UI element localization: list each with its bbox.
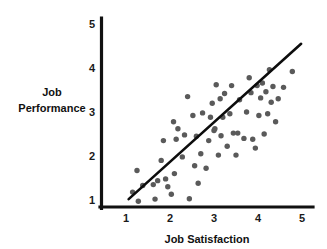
data-point [290, 69, 295, 74]
data-point [187, 196, 192, 201]
data-point [247, 75, 252, 80]
data-point [171, 119, 176, 124]
data-point [182, 132, 187, 137]
data-point [152, 196, 157, 201]
x-axis-tick-labels: 12345 [123, 212, 305, 224]
y-axis-title-line2: Performance [18, 102, 85, 114]
x-tick-label: 2 [167, 212, 173, 224]
data-point [276, 96, 281, 101]
x-tick-label: 4 [255, 212, 262, 224]
data-point [261, 131, 266, 136]
data-point [192, 163, 197, 168]
y-axis-tick-labels: 12345 [89, 18, 96, 206]
y-axis-title-line1: Job [42, 86, 62, 98]
y-tick-label: 5 [89, 18, 95, 30]
data-point [233, 152, 238, 157]
data-point [222, 91, 227, 96]
x-tick-label: 3 [211, 212, 217, 224]
data-point [134, 168, 139, 173]
data-point [180, 154, 185, 159]
data-point [281, 85, 286, 90]
data-point [159, 158, 164, 163]
data-point [244, 109, 249, 114]
data-point [172, 171, 177, 176]
data-points-group [130, 67, 295, 204]
y-tick-label: 2 [89, 150, 95, 162]
data-point [163, 176, 168, 181]
data-point [210, 101, 215, 106]
data-point [269, 100, 274, 105]
data-point [217, 96, 222, 101]
data-point [161, 138, 166, 143]
x-tick-label: 1 [123, 212, 129, 224]
x-tick-label: 5 [299, 212, 305, 224]
data-point [136, 199, 141, 204]
data-point [203, 166, 208, 171]
data-point [169, 192, 174, 197]
data-point [175, 126, 180, 131]
data-point [173, 137, 178, 142]
data-point [229, 83, 234, 88]
data-point [270, 84, 275, 89]
scatter-plot-figure: 12345 12345 Job Satisfaction Job Perform… [0, 0, 327, 249]
data-point [214, 82, 219, 87]
y-tick-label: 1 [89, 194, 95, 206]
data-point [250, 137, 255, 142]
data-point [198, 151, 203, 156]
data-point [263, 89, 268, 94]
data-point [225, 144, 230, 149]
y-tick-label: 3 [89, 106, 95, 118]
data-point [185, 94, 190, 99]
data-point [256, 113, 261, 118]
data-point [235, 130, 240, 135]
data-point [227, 111, 232, 116]
y-tick-label: 4 [89, 62, 96, 74]
data-point [155, 178, 160, 183]
data-point [212, 126, 217, 131]
data-point [218, 133, 223, 138]
data-point [206, 138, 211, 143]
data-point [190, 113, 195, 118]
data-point [151, 182, 156, 187]
data-point [253, 145, 258, 150]
data-point [195, 181, 200, 186]
data-point [273, 119, 278, 124]
data-point [200, 110, 205, 115]
data-point [265, 111, 270, 116]
x-axis-title: Job Satisfaction [165, 233, 250, 245]
data-point [165, 184, 170, 189]
data-point [241, 136, 246, 141]
data-point [216, 152, 221, 157]
plot-canvas: 12345 12345 Job Satisfaction Job Perform… [0, 0, 327, 249]
data-point [258, 95, 263, 100]
data-point [208, 115, 213, 120]
